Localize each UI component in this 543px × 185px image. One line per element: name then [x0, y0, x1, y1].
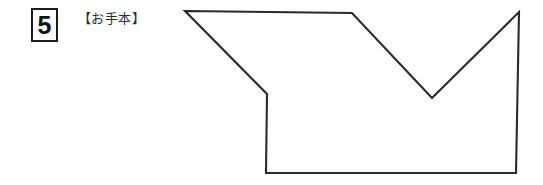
example-label: 【お手本】 — [78, 10, 145, 28]
question-number-box: 5 — [31, 8, 58, 42]
worksheet-canvas: 5 【お手本】 — [0, 0, 543, 185]
question-number-text: 5 — [38, 13, 52, 38]
model-polygon-shape — [185, 11, 519, 173]
